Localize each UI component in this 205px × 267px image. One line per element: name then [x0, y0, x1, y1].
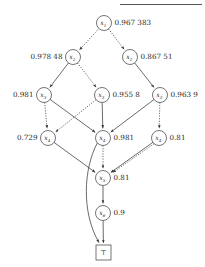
node-probability-label: 0.981 [114, 133, 135, 142]
node-probability-label: 0.955 8 [113, 90, 140, 99]
graph-node[interactable]: x4 [96, 131, 111, 146]
node-probability-label: 0.978 48 [30, 52, 62, 61]
graph-edge [80, 29, 99, 50]
graph-node[interactable]: x5 [96, 171, 111, 186]
graph-edge [135, 63, 154, 88]
graph-edge [109, 29, 125, 49]
terminal-node[interactable]: ⊤ [96, 245, 111, 260]
node-variable-subscript: 2 [72, 57, 76, 62]
node-probability-label: 0.981 [13, 90, 34, 99]
graph-edge [54, 142, 95, 172]
node-probability-label: 0.81 [114, 173, 130, 182]
graph-edge [111, 100, 154, 133]
terminal-symbol-text: ⊤ [100, 249, 107, 257]
graph-edge [159, 102, 160, 128]
graph-node[interactable]: x3 [95, 88, 110, 103]
node-variable-subscript: 4 [158, 138, 162, 143]
node-probability-label: 0.729 [17, 133, 38, 142]
graph-node[interactable]: x3 [37, 88, 52, 103]
node-probability-label: 0.963 9 [171, 90, 198, 99]
graph-node[interactable]: x6 [96, 206, 111, 221]
node-variable-subscript: 4 [102, 138, 106, 143]
node-probability-label: 0.81 [170, 133, 186, 142]
node-probability-label: 0.967 383 [115, 18, 152, 27]
node-probability-label: 0.9 [114, 208, 125, 217]
graph-edge [50, 63, 69, 87]
node-variable-subscript: 1 [104, 23, 107, 28]
graph-edge [113, 142, 156, 172]
diagram-canvas: x1x2x2x3x3x3x4x4x4x5x6⊤ 0.967 3830.978 4… [0, 0, 205, 267]
graph-edge [102, 102, 103, 128]
graph-node[interactable]: x4 [41, 131, 56, 146]
graph-node[interactable]: x4 [152, 131, 167, 146]
node-variable-subscript: 2 [129, 57, 133, 62]
node-variable-subscript: 4 [47, 138, 51, 143]
graph-edge [50, 99, 95, 132]
node-variable-subscript: 3 [160, 95, 163, 100]
graph-node[interactable]: x2 [123, 50, 138, 65]
node-variable-subscript: 3 [102, 95, 105, 100]
graph-node[interactable]: x3 [153, 88, 168, 103]
graph-edge [78, 63, 97, 87]
graph-edge [56, 100, 97, 132]
node-variable-subscript: 6 [103, 213, 106, 218]
node-variable-subscript: 5 [103, 178, 106, 183]
graph-edge [86, 143, 99, 243]
node-variable-subscript: 3 [44, 95, 47, 100]
graph-node[interactable]: x1 [97, 16, 112, 31]
graph-node[interactable]: x2 [66, 50, 81, 65]
node-probability-label: 0.867 51 [141, 52, 173, 61]
graph-edge [45, 102, 47, 128]
graph-edge [111, 142, 153, 172]
